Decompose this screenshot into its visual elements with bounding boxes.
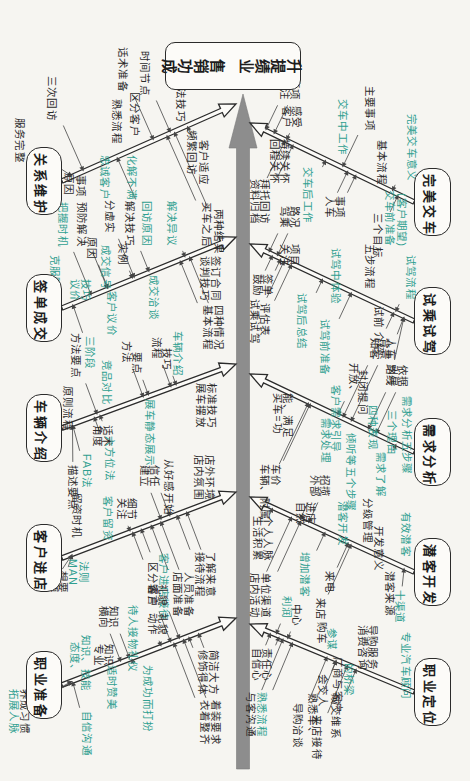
twig-line xyxy=(270,233,277,249)
keyword-label: FAB法 xyxy=(81,454,93,489)
keyword-label: 回访原因 xyxy=(141,201,153,246)
twig-label: 细节 xyxy=(126,498,138,520)
keyword-label: 成交洽谈 xyxy=(148,275,160,320)
twig-line xyxy=(277,624,280,631)
twig-line xyxy=(402,572,404,587)
keyword-label: 交车中工作 xyxy=(337,99,349,155)
keyword-label: 试驾后总结 xyxy=(296,293,308,349)
twig-label: 事项 xyxy=(334,196,346,218)
branch-name: 职业准备 xyxy=(32,657,51,719)
twig-label: 签单 xyxy=(262,274,274,296)
twig-label: 服务完整 xyxy=(14,118,26,163)
twig-line xyxy=(143,380,148,393)
twig-label: 依据 xyxy=(397,365,409,387)
twig-label: 原则流程 xyxy=(62,386,74,431)
twig-label: 责任心 xyxy=(261,648,273,682)
twig-label: 礼貌 xyxy=(157,613,169,635)
keyword-label: 忠诚客户 xyxy=(99,155,111,200)
branch-name: 需求分析 xyxy=(421,424,440,486)
twig-label: 从好感开始 xyxy=(163,459,175,515)
keyword-label: 专业汽车顾问 xyxy=(400,632,412,699)
keyword-label: 熟悉流程 xyxy=(256,692,268,737)
keyword-label: 三阶段 xyxy=(84,336,96,370)
twig-label: 熟悉流程 xyxy=(111,99,123,144)
twig-label: 时间节点 xyxy=(139,51,151,96)
branch-name: 职业定位 xyxy=(421,664,440,726)
twig-label: 项目 xyxy=(289,244,301,266)
twig-label: 持续关怀 xyxy=(279,139,291,184)
twig-line xyxy=(266,636,270,645)
twig-label: 知识 xyxy=(108,606,120,628)
twig-label: 标准技巧 xyxy=(206,383,218,428)
keyword-label: 潜客开发 xyxy=(337,501,349,546)
twig-line xyxy=(74,685,80,708)
twig-label: 进店 xyxy=(305,502,317,524)
twig-label: 了解来意 xyxy=(205,552,217,597)
twig-line xyxy=(337,174,346,193)
twig-label: 来店 xyxy=(315,598,327,620)
keyword-label: 需求了解 xyxy=(375,452,387,497)
twig-label: 着装要求 xyxy=(210,700,222,745)
twig-line xyxy=(275,267,291,300)
twig-label: 方法要点 xyxy=(70,333,82,378)
goal-title-part1: 成功销售 xyxy=(163,58,227,74)
twig-label: 区分客户 xyxy=(129,92,141,137)
twig-label: 三次回访 xyxy=(46,76,58,121)
branch-name: 关系维护 xyxy=(32,153,51,215)
keyword-label: 成交信号 xyxy=(100,245,112,290)
twig-line xyxy=(386,315,392,328)
twig-label: 招揽 xyxy=(319,475,331,497)
keyword-label: 交车前准备 xyxy=(384,190,396,246)
twig-line xyxy=(74,308,83,333)
twig-label: 感受 xyxy=(291,106,303,128)
twig-line xyxy=(347,178,354,193)
twig-label: 人员准备 xyxy=(183,572,195,617)
keyword-label: (客户期望) xyxy=(396,193,408,247)
twig-line xyxy=(74,428,80,451)
twig-label: 解决技巧 xyxy=(124,201,136,246)
twig-line xyxy=(178,518,190,550)
twig-line xyxy=(200,636,204,648)
twig-line xyxy=(188,515,201,550)
twig-line xyxy=(141,251,148,269)
twig-label: 路况 xyxy=(289,206,301,228)
twig-label: 两种结果 xyxy=(213,209,225,254)
twig-label: 能、满足 xyxy=(282,393,294,438)
keyword-label: 化解不满 xyxy=(126,155,138,200)
twig-label: 个人人脉 xyxy=(262,516,274,561)
twig-line xyxy=(86,383,96,411)
twig-line xyxy=(175,646,195,698)
twig-label: 信任 xyxy=(149,465,161,487)
keyword-label: 增加潜客 xyxy=(299,552,311,597)
twig-label: 车价 xyxy=(270,464,282,486)
fishbone-diagram: 成功销售 业绩提升 关系维护服务完整三次回访忠诚客户熟悉流程区分客户话术准备时间… xyxy=(0,0,470,781)
branch-name: 客户进店 xyxy=(32,530,51,592)
twig-label: 来电 xyxy=(324,571,336,593)
twig-line xyxy=(278,524,300,572)
twig-label: 成交维系 xyxy=(330,694,342,739)
keyword-label: 待人接物礼仪 xyxy=(127,605,139,672)
twig-line xyxy=(151,493,160,517)
twig-label: 分虚实 xyxy=(104,200,116,234)
twig-label: 单位渠道 xyxy=(260,573,272,618)
keyword-label: 自信沟通 xyxy=(81,711,93,756)
twig-label: 客户适应 xyxy=(198,140,210,185)
keyword-label: 竞品对比 xyxy=(101,360,113,405)
twig-label: 实例 xyxy=(117,243,129,265)
twig-label: 简洁大方 xyxy=(208,650,220,695)
twig-line xyxy=(63,126,82,168)
twig-label: 知识 xyxy=(103,644,115,666)
keyword-label: 三个理由 xyxy=(386,410,398,455)
twig-line xyxy=(316,282,321,293)
keyword-label: 试驾中体验 xyxy=(330,248,342,304)
keyword-label: 参谋 xyxy=(326,628,338,650)
twig-label: 留资时机 xyxy=(71,493,83,538)
keyword-label: 法则 xyxy=(78,561,90,583)
keyword-label: 客户需求引导 xyxy=(330,385,342,452)
keyword-label: 试驾前准备 xyxy=(319,319,331,375)
twig-label: 频繁回访 xyxy=(186,130,198,175)
branch-name: 签单成交 xyxy=(32,280,51,342)
twig-label: 试前 xyxy=(373,306,385,328)
twig-label: 导购服务 xyxy=(367,625,379,670)
twig-line xyxy=(190,640,193,648)
